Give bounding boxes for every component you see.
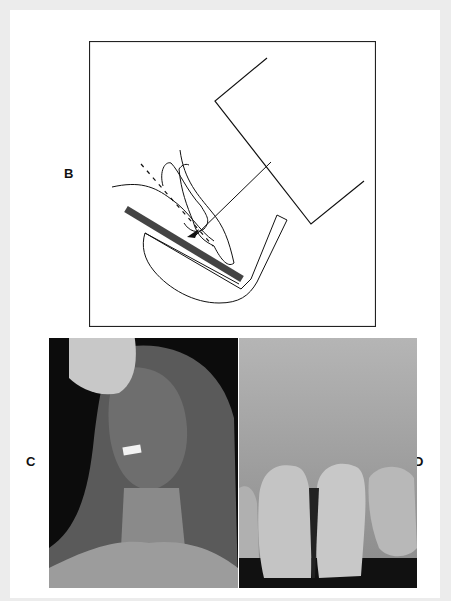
tooth-right-central	[316, 464, 366, 578]
radiograph-illustration	[239, 338, 417, 588]
tooth-left-central	[258, 465, 312, 578]
radiograph-image	[239, 338, 417, 588]
panel-label-b: B	[64, 166, 73, 181]
patient-photo	[49, 338, 238, 588]
panel-label-c: C	[26, 454, 35, 469]
paralleling-diagram	[89, 41, 376, 327]
patient-illustration	[49, 338, 238, 588]
figure-page: B C D	[10, 10, 440, 598]
